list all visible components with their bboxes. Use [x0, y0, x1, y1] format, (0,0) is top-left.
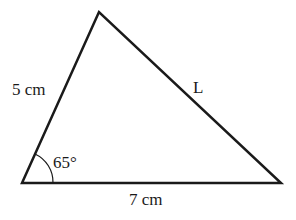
base-label: 7 cm [129, 190, 163, 209]
right-side-label: L [193, 78, 203, 97]
angle-arc [35, 154, 53, 183]
triangle-diagram: 5 cm L 7 cm 65° [0, 0, 296, 220]
angle-label: 65° [53, 153, 77, 172]
left-side-label: 5 cm [12, 80, 46, 99]
